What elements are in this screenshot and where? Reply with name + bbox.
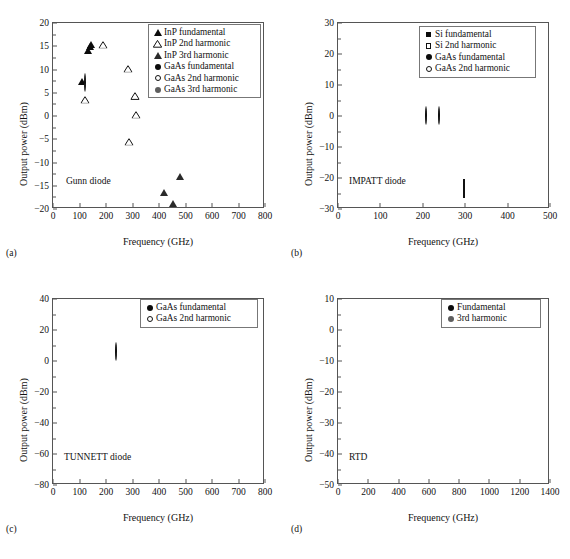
panel-tag-c: (c) [6,524,17,534]
y-tick-label: −10 [34,158,53,168]
legend-marker-circle-o-icon [144,316,155,322]
x-tick-mark [185,479,186,483]
y-tick-mark [53,116,57,117]
y-tick-label: 20 [40,18,54,28]
x-tick-mark [550,479,551,483]
legend-marker-circle-f-icon [423,54,434,60]
x-tick-label: 0 [51,483,56,497]
panel-note-c: TUNNETT diode [64,452,131,462]
x-axis-label-a: Frequency (GHz) [52,236,264,247]
legend-label: InP fundamental [163,27,225,38]
y-tick-mark [53,392,57,393]
y-tick-mark [53,423,57,424]
legend-marker-circle-f-icon [152,64,163,70]
x-tick-label: 200 [416,207,430,221]
x-axis-label-b: Frequency (GHz) [337,236,549,247]
legend-label: GaAs 2nd harmonic [434,63,510,74]
y-tick-mark [338,178,342,179]
y-tick-label: 0 [44,111,53,121]
legend-label: GaAs 2nd harmonic [163,73,239,84]
x-tick-label: 500 [178,207,192,221]
x-tick-label: 300 [125,207,139,221]
legend-marker-square-o-icon [423,43,434,49]
y-minor-tick-mark [53,469,56,470]
y-minor-tick-mark [338,376,341,377]
data-point [84,74,86,92]
data-point [123,65,132,73]
x-tick-mark [132,479,133,483]
y-minor-tick-mark [338,100,341,101]
x-tick-mark [459,479,460,483]
y-minor-tick-mark [53,314,56,315]
y-tick-mark [338,85,342,86]
y-axis-label-a: Output power (dBm) [18,102,29,186]
legend-item-b-3: GaAs 2nd harmonic [423,63,531,74]
legend-item-a-4: GaAs 2nd harmonic [152,73,256,84]
x-tick-mark [550,203,551,207]
x-tick-label: 600 [205,207,219,221]
panel-note-b: IMPATT diode [349,176,406,186]
x-tick-mark [212,203,213,207]
legend-marker-circle-f-icon [445,305,456,311]
data-point [463,180,465,198]
y-axis-label-d: Output power (dBm) [303,378,314,462]
y-tick-mark [338,116,342,117]
x-tick-label: 1000 [480,483,499,497]
legend-marker-circle-o-icon [423,66,434,72]
legend-d: Fundamental3rd harmonic [441,299,541,328]
legend-label: Fundamental [456,302,506,313]
legend-item-a-1: InP 2nd harmonic [152,38,256,49]
x-tick-label: 100 [72,207,86,221]
y-tick-mark [338,23,342,24]
y-tick-mark [53,185,57,186]
panel-tag-a: (a) [6,248,17,258]
y-tick-mark [338,454,342,455]
x-tick-mark [79,479,80,483]
legend-label: Si fundamental [434,29,492,40]
x-tick-mark [265,479,266,483]
legend-item-d-0: Fundamental [445,302,536,313]
legend-c: GaAs fundamentalGaAs 2nd harmonic [140,299,258,328]
legend-marker-circle-g-icon [445,316,456,322]
y-tick-mark [53,454,57,455]
x-tick-mark [106,203,107,207]
y-tick-label: −10 [319,142,338,152]
y-minor-tick-mark [338,407,341,408]
x-tick-label: 1400 [541,483,560,497]
x-tick-label: 700 [231,207,245,221]
data-point [438,107,440,125]
x-tick-label: 600 [422,483,436,497]
panel-a-gunn-diode: −20−15−10−505101520010020030040050060070… [0,0,285,279]
y-tick-label: 10 [325,294,339,304]
panel-c-tunnett-diode: −80−60−40−200204001002003004005006007008… [0,280,285,559]
legend-marker-circle-f-icon [144,305,155,311]
legend-item-d-1: 3rd harmonic [445,313,536,324]
y-tick-mark [338,330,342,331]
x-tick-label: 700 [231,483,245,497]
y-tick-label: −30 [319,418,338,428]
y-minor-tick-mark [338,38,341,39]
y-tick-mark [338,299,342,300]
legend-item-a-0: InP fundamental [152,27,256,38]
y-tick-label: 0 [329,325,338,335]
legend-label: 3rd harmonic [456,313,507,324]
legend-marker-circle-g-icon [152,87,163,93]
y-minor-tick-mark [53,57,56,58]
y-tick-label: 40 [40,294,54,304]
y-tick-label: −15 [34,181,53,191]
y-tick-mark [338,392,342,393]
legend-label: Si 2nd harmonic [434,40,496,51]
x-tick-label: 0 [51,207,56,221]
panel-b-impatt-diode: −30−20−1001020300100200300400500 Output … [285,0,570,279]
legend-b: Si fundamentalSi 2nd harmonicGaAs fundam… [419,26,536,78]
data-point [160,172,168,190]
y-tick-label: −40 [319,449,338,459]
x-tick-mark [489,479,490,483]
x-tick-mark [238,203,239,207]
x-tick-label: 300 [125,483,139,497]
x-tick-mark [212,479,213,483]
x-tick-label: 400 [152,483,166,497]
figure-scatter-panels: −20−15−10−505101520010020030040050060070… [0,0,570,559]
legend-label: InP 2nd harmonic [163,38,230,49]
y-tick-mark [53,299,57,300]
